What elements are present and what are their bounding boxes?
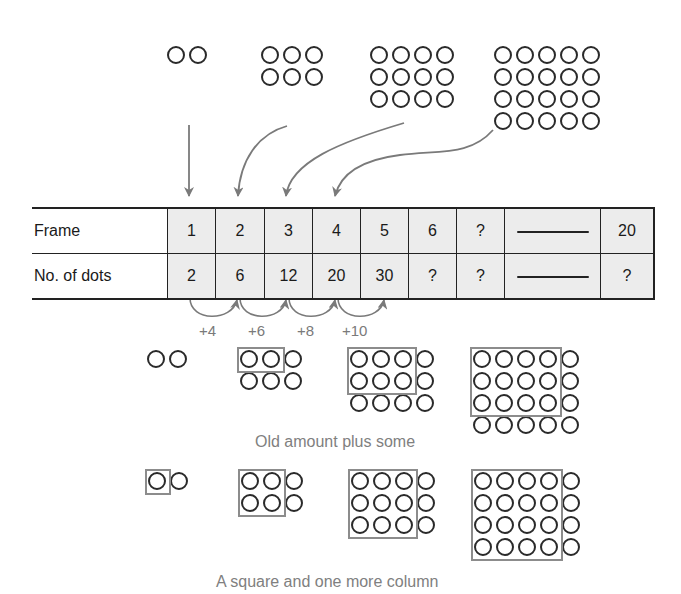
circle-icon: [414, 68, 432, 86]
increment-label-1: +4: [199, 322, 216, 339]
circle-icon: [538, 46, 556, 64]
arrow-frame-3: [286, 123, 404, 196]
circle-icon: [417, 494, 435, 512]
circle-icon: [261, 68, 279, 86]
frame-to-table-arrows: [189, 123, 493, 196]
cell-dots-7: ?: [457, 254, 505, 300]
cell-dots-6: ?: [409, 254, 457, 300]
circle-icon: [582, 90, 600, 108]
frame-dots-table: Frame 1 2 3 4 5 6 ? 20 No. of dots 2 6 1…: [32, 207, 655, 300]
circle-icon: [285, 494, 303, 512]
cell-frame-6: 6: [409, 208, 457, 254]
circle-icon: [516, 46, 534, 64]
circle-icon: [562, 538, 580, 556]
cell-dots-20: ?: [601, 254, 655, 300]
circle-icon: [261, 46, 279, 64]
circle-icon: [561, 416, 579, 434]
increment-label-3: +8: [297, 322, 314, 339]
circle-icon: [417, 516, 435, 534]
circle-icon: [170, 472, 188, 490]
circle-icon: [372, 394, 390, 412]
circle-icon: [283, 46, 301, 64]
circle-icon: [516, 90, 534, 108]
ellipsis-line: [517, 231, 589, 233]
cell-frame-7: ?: [457, 208, 505, 254]
increment-label-2: +6: [248, 322, 265, 339]
circle-icon: [416, 372, 434, 390]
cell-frame-5: 5: [361, 208, 409, 254]
circle-icon: [284, 350, 302, 368]
circle-icon: [473, 416, 491, 434]
grouping-box: [238, 469, 286, 517]
circle-icon: [560, 112, 578, 130]
circle-icon: [582, 68, 600, 86]
grouping-box: [470, 347, 562, 417]
circle-icon: [147, 350, 165, 368]
circle-icon: [517, 416, 535, 434]
circle-icon: [392, 46, 410, 64]
circle-icon: [414, 46, 432, 64]
cell-dots-ellipsis: [505, 254, 601, 300]
circle-icon: [416, 350, 434, 368]
grouping-box: [145, 469, 171, 495]
grouping-box: [237, 347, 285, 373]
circle-icon: [562, 472, 580, 490]
circle-icon: [560, 90, 578, 108]
circle-icon: [562, 516, 580, 534]
circle-icon: [284, 372, 302, 390]
circle-icon: [539, 416, 557, 434]
circle-icon: [394, 394, 412, 412]
circle-icon: [494, 68, 512, 86]
circle-icon: [560, 46, 578, 64]
dot-pattern-diagram: Frame 1 2 3 4 5 6 ? 20 No. of dots 2 6 1…: [0, 0, 681, 594]
circle-icon: [169, 350, 187, 368]
cell-frame-1: 1: [168, 208, 216, 254]
circle-icon: [414, 90, 432, 108]
circle-icon: [436, 68, 454, 86]
circle-icon: [370, 46, 388, 64]
circle-icon: [538, 112, 556, 130]
cell-frame-4: 4: [313, 208, 361, 254]
caption-square-column: A square and one more column: [216, 573, 438, 591]
cell-frame-2: 2: [216, 208, 265, 254]
cell-frame-ellipsis: [505, 208, 601, 254]
circle-icon: [561, 394, 579, 412]
cell-dots-5: 30: [361, 254, 409, 300]
grouping-box: [348, 469, 418, 539]
circle-icon: [436, 46, 454, 64]
cell-dots-2: 6: [216, 254, 265, 300]
circle-icon: [561, 350, 579, 368]
circle-icon: [392, 68, 410, 86]
circle-icon: [283, 68, 301, 86]
increment-arrows: [190, 298, 384, 316]
row-label-dots: No. of dots: [32, 254, 168, 300]
circle-icon: [262, 372, 280, 390]
circle-icon: [416, 394, 434, 412]
circle-icon: [582, 46, 600, 64]
circle-icon: [560, 68, 578, 86]
cell-dots-4: 20: [313, 254, 361, 300]
circle-icon: [436, 90, 454, 108]
circle-icon: [494, 90, 512, 108]
circle-icon: [285, 472, 303, 490]
circle-icon: [189, 46, 207, 64]
circle-icon: [495, 416, 513, 434]
circle-icon: [582, 112, 600, 130]
circle-icon: [538, 68, 556, 86]
circle-icon: [305, 68, 323, 86]
cell-dots-3: 12: [265, 254, 313, 300]
increment-label-4: +10: [342, 322, 367, 339]
circle-icon: [494, 46, 512, 64]
circle-icon: [370, 68, 388, 86]
circle-icon: [167, 46, 185, 64]
table-row-frame: Frame 1 2 3 4 5 6 ? 20: [32, 208, 654, 254]
circle-icon: [305, 46, 323, 64]
circle-icon: [516, 112, 534, 130]
arrow-frame-4: [335, 130, 493, 196]
circle-icon: [350, 394, 368, 412]
caption-old-amount: Old amount plus some: [255, 433, 415, 451]
table-row-dots: No. of dots 2 6 12 20 30 ? ? ?: [32, 254, 654, 300]
cell-dots-1: 2: [168, 254, 216, 300]
circle-icon: [516, 68, 534, 86]
arrow-frame-2: [238, 126, 287, 196]
